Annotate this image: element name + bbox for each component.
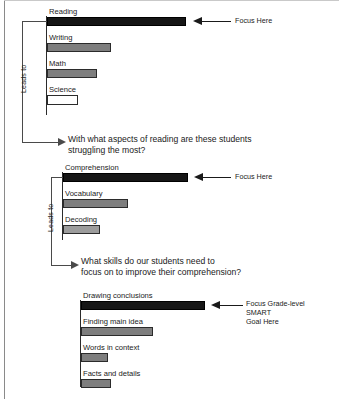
bar-words-in-context — [81, 353, 108, 362]
bar-label-words-in-context: Words in context — [83, 343, 139, 352]
callout-text-line3: Goal Here — [246, 318, 279, 327]
bar-finding-main-idea — [81, 327, 153, 336]
chart-comprehension-skills-axis — [80, 300, 81, 387]
bar-label-facts-and-details: Facts and details — [83, 369, 140, 378]
arrow-shaft — [220, 305, 243, 306]
bar-drawing-conclusions — [81, 301, 205, 310]
diagram-canvas: Reading Writing Math Science Focus Here … — [0, 0, 339, 399]
bar-label-finding-main-idea: Finding main idea — [83, 317, 143, 326]
bar-facts-and-details — [81, 379, 111, 388]
chart-comprehension-skills: Drawing conclusions Finding main idea Wo… — [0, 0, 339, 399]
arrow-head-icon — [211, 301, 220, 309]
bar-label-drawing-conclusions: Drawing conclusions — [83, 291, 153, 300]
